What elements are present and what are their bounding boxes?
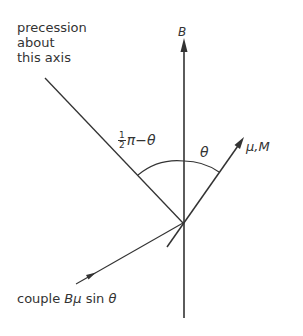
complement-angle-expr: π−θ — [127, 132, 156, 148]
mu-m-label: μ,M — [246, 139, 270, 154]
couple-label: couple Bμ sin θ — [17, 291, 116, 306]
precession-axis-label: precession about this axis — [17, 20, 87, 65]
couple-vector — [76, 223, 183, 284]
angle-arc-theta — [184, 161, 219, 172]
couple-theta: θ — [108, 291, 116, 306]
precession-label-line-1: precession — [17, 20, 87, 35]
precession-label-line-2: about — [17, 35, 87, 50]
precession-axis-line — [45, 78, 183, 223]
complement-angle-label: 1 2 π−θ — [118, 131, 155, 150]
b-arrowhead-icon — [181, 38, 188, 52]
precession-label-line-3: this axis — [17, 50, 87, 65]
b-field-axis — [181, 38, 188, 318]
couple-expr: Bμ — [64, 291, 81, 306]
mu-arrowhead-icon — [235, 137, 245, 149]
couple-arrowhead-icon — [86, 273, 96, 280]
couple-sin: sin — [86, 291, 105, 306]
one-half-fraction: 1 2 — [118, 131, 126, 150]
theta-angle-label: θ — [200, 145, 209, 160]
couple-prefix: couple — [17, 291, 60, 306]
b-field-label: B — [178, 25, 186, 40]
angle-arc-complement — [138, 161, 184, 175]
fraction-denominator: 2 — [118, 141, 126, 150]
